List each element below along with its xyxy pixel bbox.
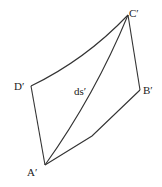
diagonal-ds bbox=[45, 15, 128, 165]
label-b: B′ bbox=[143, 84, 153, 96]
label-c: C′ bbox=[129, 7, 139, 19]
edge-a-d bbox=[31, 86, 45, 165]
label-ds: ds′ bbox=[74, 85, 86, 97]
edge-d-c bbox=[31, 15, 128, 86]
label-a: A′ bbox=[27, 166, 37, 178]
edge-c-b bbox=[128, 15, 140, 90]
edge-b-a bbox=[45, 90, 140, 165]
deformed-element-diagram: C′ B′ D′ A′ ds′ bbox=[0, 0, 162, 187]
label-d: D′ bbox=[14, 80, 24, 92]
